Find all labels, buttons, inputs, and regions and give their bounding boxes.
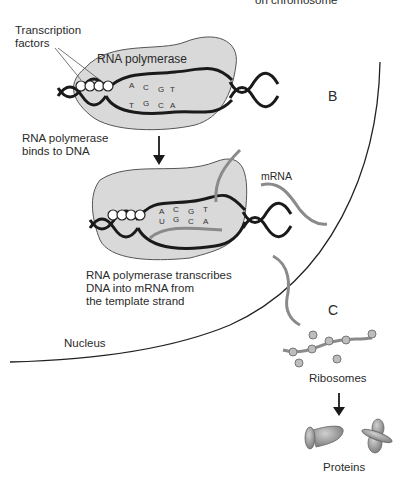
transcription-factors-label-2: factors bbox=[15, 37, 50, 50]
svg-text:T: T bbox=[203, 205, 208, 214]
mrna-label: mRNA bbox=[261, 170, 292, 183]
svg-text:A: A bbox=[170, 101, 176, 110]
svg-text:T: T bbox=[129, 101, 134, 110]
proteins-label: Proteins bbox=[323, 461, 365, 474]
step2-label-line1: RNA polymerase transcribes bbox=[86, 269, 232, 282]
svg-text:A: A bbox=[203, 217, 209, 226]
svg-text:G: G bbox=[173, 215, 179, 224]
transcription-diagram: A C G T T G C A A C G T U G C A bbox=[0, 0, 405, 478]
mrna-strand-1 bbox=[261, 184, 327, 224]
dna-helix-right-2 bbox=[243, 203, 291, 237]
svg-text:A: A bbox=[159, 207, 165, 216]
svg-text:C: C bbox=[143, 83, 149, 92]
protein-2 bbox=[361, 419, 394, 453]
dna-helix-right-1 bbox=[230, 73, 278, 107]
rna-polymerase-label: RNA polymerase bbox=[97, 53, 187, 66]
mrna-strand-2 bbox=[273, 256, 300, 325]
step1-label-line1: RNA polymerase bbox=[22, 132, 108, 145]
arrow-2-head bbox=[333, 407, 345, 416]
svg-text:G: G bbox=[158, 85, 164, 94]
arrow-1-head bbox=[153, 155, 165, 165]
svg-text:U: U bbox=[159, 217, 165, 226]
ribosomes bbox=[289, 330, 376, 367]
svg-text:C: C bbox=[188, 217, 194, 226]
section-b-label: B bbox=[328, 90, 337, 103]
top-cut-label: on chromosome bbox=[255, 0, 337, 7]
step2-label-line3: the template strand bbox=[86, 295, 184, 308]
ribosomes-label: Ribosomes bbox=[309, 372, 367, 385]
section-c-label: C bbox=[328, 304, 338, 317]
transcription-factors-label-1: Transcription bbox=[15, 24, 81, 37]
nucleus-label: Nucleus bbox=[64, 337, 106, 350]
step1-label-line2: binds to DNA bbox=[22, 145, 90, 158]
svg-text:C: C bbox=[173, 205, 179, 214]
svg-text:A: A bbox=[129, 81, 135, 90]
protein-1 bbox=[305, 426, 343, 449]
svg-text:C: C bbox=[158, 101, 164, 110]
svg-text:G: G bbox=[188, 207, 194, 216]
svg-text:G: G bbox=[143, 99, 149, 108]
step2-label-line2: DNA into mRNA from bbox=[86, 282, 194, 295]
svg-text:T: T bbox=[170, 85, 175, 94]
